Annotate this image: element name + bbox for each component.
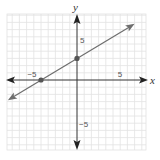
- y-axis-label: y: [72, 1, 78, 13]
- coordinate-graph: −5 5 5 −5 x y: [0, 0, 160, 160]
- line-arrow-up-right-icon: [125, 24, 135, 32]
- axes: [6, 14, 148, 150]
- x-tick-label-neg5: −5: [27, 70, 37, 79]
- tick-labels: −5 5 5 −5: [27, 36, 122, 129]
- y-tick-label-5: 5: [80, 36, 85, 45]
- data-point: [38, 77, 43, 82]
- x-tick-label-5: 5: [118, 70, 123, 79]
- x-axis-label: x: [149, 74, 155, 86]
- line-segment: [13, 27, 129, 97]
- line-arrow-down-left-icon: [8, 93, 18, 101]
- y-tick-label-neg5: −5: [79, 120, 89, 129]
- data-point: [74, 56, 79, 61]
